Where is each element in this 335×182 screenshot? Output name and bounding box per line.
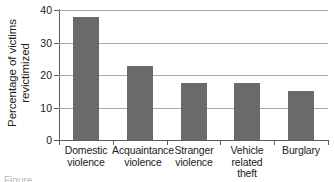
y-tick-label-0: 0	[28, 134, 52, 146]
bar-stranger-violence[interactable]	[181, 83, 207, 140]
gridline-20	[59, 75, 328, 76]
x-axis-line	[59, 140, 329, 141]
gridline-30	[59, 43, 328, 44]
x-label-line: Burglary	[274, 145, 328, 157]
y-tick-label-20: 20	[28, 69, 52, 81]
x-tick-mark-5	[328, 141, 329, 145]
bar-burglary[interactable]	[288, 91, 314, 140]
bar-vehicle-related-theft[interactable]	[234, 83, 260, 140]
figure-caption: Figure ...	[4, 175, 334, 182]
bar-acquaintance-violence[interactable]	[127, 66, 153, 140]
y-tick-label-10: 10	[28, 102, 52, 114]
y-tick-label-30: 30	[28, 37, 52, 49]
y-axis-title-line-1: Percentage of victims	[6, 1, 19, 145]
x-axis-label-burglary: Burglary	[274, 145, 328, 157]
y-tick-label-40: 40	[28, 4, 52, 16]
y-axis-tick-labels: 40 30 20 10 0	[26, 0, 52, 182]
x-label-line: violence	[166, 157, 222, 169]
x-axis-label-stranger-violence: Stranger violence	[166, 145, 222, 168]
gridline-40	[59, 10, 328, 11]
bar-chart-figure: Percentage of victims revictimized 40 30…	[0, 0, 335, 182]
bar-domestic-violence[interactable]	[73, 17, 99, 140]
x-label-line: Vehicle	[222, 145, 272, 157]
plot-area	[59, 10, 328, 140]
x-label-line: Stranger	[166, 145, 222, 157]
